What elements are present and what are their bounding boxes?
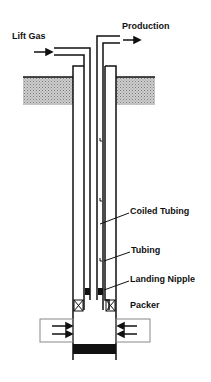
landing-nipple-right [98, 288, 103, 295]
tubing-label: Tubing [131, 245, 160, 255]
packer-label: Packer [130, 300, 160, 310]
coiled-tubing-label: Coiled Tubing [130, 206, 189, 216]
lift-gas-arrow [34, 49, 52, 55]
bottom-plug [73, 344, 116, 354]
inflow-arrows [52, 323, 137, 337]
lift-gas-label: Lift Gas [12, 31, 46, 41]
casing [73, 66, 116, 360]
coiled-tubing-markers [100, 138, 102, 261]
production-label: Production [122, 21, 170, 31]
perforation-zone [40, 319, 150, 342]
well-diagram [0, 0, 211, 382]
ground [23, 77, 155, 105]
landing-nipple-left [85, 288, 90, 295]
production-arrow [123, 37, 140, 43]
landing-nipple-label: Landing Nipple [130, 274, 195, 284]
